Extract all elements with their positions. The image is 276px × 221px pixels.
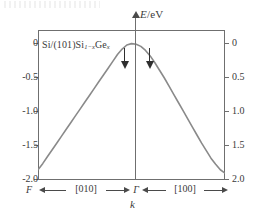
direction-line-a [44, 190, 66, 191]
arrowhead-right-icon [124, 187, 130, 193]
k-point-gamma: Γ [131, 184, 141, 195]
ytick-right-05 [225, 77, 229, 78]
ylabel-right-0: 0 [232, 38, 237, 48]
energy-axis-symbol: E [140, 8, 147, 20]
ytick-right-0 [225, 43, 229, 44]
ylabel-right-20: 2.0 [232, 174, 245, 184]
energy-axis-label: E/eV [140, 8, 163, 20]
sample-label-mid: Ge [95, 39, 107, 50]
ylabel-left-10: -1.0 [22, 106, 38, 116]
ytick-right-10 [225, 111, 229, 112]
band-structure-figure: E/eV 0 -0.5 -1.0 -1.5 -2.0 0 0.5 1.0 1.5… [0, 0, 276, 221]
ylabel-right-05: 0.5 [232, 72, 245, 82]
band-curve [38, 30, 225, 180]
direction-line-a [147, 190, 167, 191]
ylabel-right-15: 1.5 [232, 140, 245, 150]
k-endpoint-f: F [26, 184, 32, 195]
direction-label-100: [100] [166, 183, 204, 194]
ylabel-left-0: 0 [33, 38, 38, 48]
direction-span-100: [100] [142, 183, 227, 197]
energy-axis-unit: /eV [147, 8, 163, 20]
arrow-head [146, 61, 154, 69]
direction-label-010: [010] [66, 183, 106, 194]
down-arrow-left-icon [120, 48, 129, 70]
arrowhead-right-icon [222, 187, 228, 193]
ytick-right-15 [225, 145, 229, 146]
energy-axis-arrowhead [132, 11, 140, 18]
scan-artifact [4, 1, 100, 8]
direction-span-010: [010] [39, 183, 131, 197]
k-axis-row: F [010] Γ [100] [38, 183, 225, 199]
energy-axis-line [135, 16, 136, 180]
arrow-head [121, 61, 129, 69]
down-arrow-right-icon [145, 48, 154, 70]
ylabel-left-05: -0.5 [22, 72, 38, 82]
sample-label-sub2: x [107, 43, 110, 50]
sample-label: Si/(101)Si1−xGex [42, 39, 110, 50]
sample-label-prefix: Si/(101)Si [42, 39, 84, 50]
k-axis-name: k [130, 198, 135, 210]
ylabel-left-20: -2.0 [22, 174, 38, 184]
ytick-right-20 [225, 179, 229, 180]
ylabel-right-10: 1.0 [232, 106, 245, 116]
sample-label-sub1: 1−x [84, 43, 95, 50]
ylabel-left-15: -1.5 [22, 140, 38, 150]
